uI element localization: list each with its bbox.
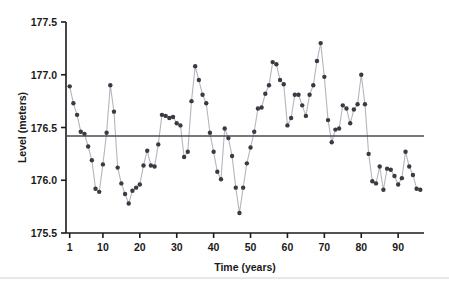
data-point <box>311 83 315 87</box>
data-point <box>248 145 252 149</box>
data-point <box>330 140 334 144</box>
data-point <box>270 60 274 64</box>
data-point <box>189 99 193 103</box>
data-point <box>104 131 108 135</box>
data-point <box>97 190 101 194</box>
data-point <box>344 106 348 110</box>
data-point <box>274 62 278 66</box>
x-tick-label: 50 <box>245 241 257 253</box>
data-point <box>75 113 79 117</box>
y-tick-label: 177.0 <box>31 69 57 81</box>
data-point <box>267 83 271 87</box>
data-point <box>119 181 123 185</box>
data-point <box>282 82 286 86</box>
data-point <box>90 158 94 162</box>
data-point <box>370 179 374 183</box>
data-point <box>241 185 245 189</box>
data-point <box>374 181 378 185</box>
data-point <box>112 109 116 113</box>
data-point <box>315 59 319 63</box>
data-point <box>171 115 175 119</box>
data-point <box>411 173 415 177</box>
data-point <box>407 164 411 168</box>
data-point <box>182 155 186 159</box>
y-tick-label: 177.5 <box>31 16 57 28</box>
data-point <box>127 201 131 205</box>
x-tick-label: 70 <box>319 241 331 253</box>
data-point <box>237 211 241 215</box>
data-point <box>193 64 197 68</box>
data-point <box>197 78 201 82</box>
data-point <box>115 165 119 169</box>
x-tick-label: 10 <box>97 241 109 253</box>
data-point <box>263 92 267 96</box>
data-point <box>352 107 356 111</box>
x-tick-label: 40 <box>208 241 220 253</box>
data-point <box>322 75 326 79</box>
data-point <box>366 152 370 156</box>
data-point <box>79 130 83 134</box>
data-point <box>318 41 322 45</box>
data-point <box>363 102 367 106</box>
data-point <box>252 130 256 134</box>
data-point <box>285 123 289 127</box>
x-tick-label: 30 <box>171 241 183 253</box>
data-point <box>296 93 300 97</box>
data-point <box>186 150 190 154</box>
data-point <box>175 121 179 125</box>
data-point <box>259 105 263 109</box>
data-point <box>208 131 212 135</box>
x-tick-label: 1 <box>67 241 73 253</box>
data-point <box>223 126 227 130</box>
data-point <box>204 101 208 105</box>
data-point <box>149 163 153 167</box>
data-point <box>289 116 293 120</box>
data-point <box>141 163 145 167</box>
data-point <box>93 186 97 190</box>
data-point <box>152 164 156 168</box>
data-point <box>355 102 359 106</box>
data-point <box>333 127 337 131</box>
x-tick-label: 60 <box>282 241 294 253</box>
data-point <box>167 116 171 120</box>
x-axis-title: Time (years) <box>214 261 276 273</box>
data-point <box>400 176 404 180</box>
data-point <box>219 177 223 181</box>
data-point <box>418 188 422 192</box>
x-tick-label: 20 <box>134 241 146 253</box>
data-point <box>245 161 249 165</box>
data-point <box>160 113 164 117</box>
data-point <box>130 189 134 193</box>
y-tick-label: 176.5 <box>31 122 57 134</box>
data-point <box>396 182 400 186</box>
data-point <box>256 106 260 110</box>
data-point <box>304 114 308 118</box>
data-point <box>123 192 127 196</box>
data-point <box>200 93 204 97</box>
bottom-divider <box>0 277 449 279</box>
data-point <box>215 170 219 174</box>
time-series-level-plot: 175.5176.0176.5177.0177.5110203040506070… <box>0 0 449 285</box>
data-point <box>138 182 142 186</box>
data-point <box>134 185 138 189</box>
data-point <box>307 93 311 97</box>
chart-figure: 175.5176.0176.5177.0177.5110203040506070… <box>0 0 449 285</box>
axis-labels-group: 175.5176.0176.5177.0177.5110203040506070… <box>16 16 404 273</box>
x-tick-label: 80 <box>355 241 367 253</box>
data-point <box>348 121 352 125</box>
y-axis-title: Level (meters) <box>16 92 28 163</box>
data-point <box>67 84 71 88</box>
data-point <box>378 164 382 168</box>
data-point <box>86 144 90 148</box>
data-point <box>178 123 182 127</box>
data-point <box>101 162 105 166</box>
data-point <box>389 168 393 172</box>
data-point <box>108 83 112 87</box>
x-tick-label: 90 <box>392 241 404 253</box>
data-point <box>145 149 149 153</box>
data-point <box>392 174 396 178</box>
data-point <box>211 150 215 154</box>
data-point <box>337 126 341 130</box>
data-point <box>278 78 282 82</box>
data-point <box>414 186 418 190</box>
